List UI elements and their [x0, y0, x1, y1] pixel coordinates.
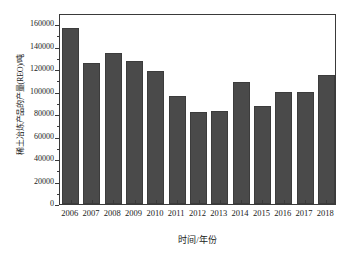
x-axis-tick-mark	[326, 200, 327, 204]
x-axis-tick-mark	[113, 200, 114, 204]
y-axis-tick-label: 20000	[34, 177, 54, 186]
bar	[169, 96, 186, 204]
y-axis-tick-label: 160000	[30, 19, 54, 28]
bar	[297, 92, 314, 204]
y-axis-tick-mark	[55, 205, 59, 206]
bar	[83, 63, 100, 204]
x-axis-tick-mark	[177, 200, 178, 204]
plot-frame	[59, 14, 336, 205]
x-axis-tick-mark	[220, 200, 221, 204]
x-axis-title: 时间/年份	[59, 233, 336, 246]
x-axis-tick-mark	[71, 200, 72, 204]
bar	[147, 71, 164, 204]
x-axis-tick-mark	[92, 200, 93, 204]
y-axis-tick-label: 60000	[34, 132, 54, 141]
x-axis-tick-mark	[241, 200, 242, 204]
bar	[318, 75, 335, 204]
y-axis-tick-label: 140000	[30, 42, 54, 51]
bar	[254, 106, 271, 204]
chart-page: 稀土冶炼产品的产量(REO)/吨 02000040000600008000010…	[0, 0, 351, 260]
y-axis-tick-label: 0	[50, 199, 54, 208]
plot-area	[60, 15, 335, 204]
bar	[126, 61, 143, 204]
bar	[233, 82, 250, 204]
x-axis-tick-mark	[284, 200, 285, 204]
bar	[275, 92, 292, 204]
y-axis-tick-label: 120000	[30, 64, 54, 73]
bar	[190, 112, 207, 204]
y-axis-tick-label: 40000	[34, 154, 54, 163]
y-axis-tick-group: 0200004000060000800001000001200001400001…	[0, 14, 59, 205]
y-axis-tick-label: 80000	[34, 109, 54, 118]
x-axis-tick-mark	[156, 200, 157, 204]
y-axis-tick-label: 100000	[30, 87, 54, 96]
bar	[62, 28, 79, 204]
x-axis-tick-label: 2018	[313, 208, 337, 218]
x-axis-tick-mark	[305, 200, 306, 204]
x-axis-tick-mark	[262, 200, 263, 204]
bar	[105, 53, 122, 204]
bar	[211, 111, 228, 204]
x-axis-tick-mark	[199, 200, 200, 204]
x-axis-tick-mark	[135, 200, 136, 204]
